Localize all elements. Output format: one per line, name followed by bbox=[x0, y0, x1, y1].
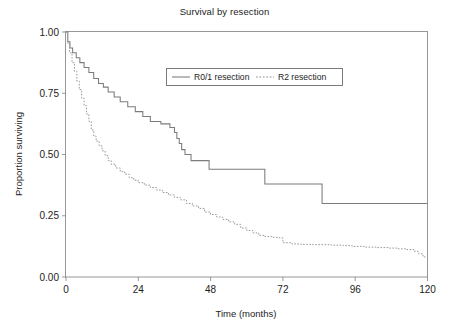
y-tick-label: 1.00 bbox=[40, 27, 60, 38]
legend-label-r2-resection: R2 resection bbox=[278, 72, 326, 82]
x-axis-title: Time (months) bbox=[216, 308, 277, 319]
y-tick-label: 0.00 bbox=[40, 272, 60, 283]
legend-label-r01-resection: R0/1 resection bbox=[194, 72, 250, 82]
y-tick-label: 0.50 bbox=[40, 149, 60, 160]
y-axis-tick-labels: 0.000.250.500.751.00 bbox=[40, 27, 60, 283]
x-tick-label: 24 bbox=[133, 284, 145, 295]
x-tick-label: 0 bbox=[63, 284, 69, 295]
y-tick-label: 0.75 bbox=[40, 88, 60, 99]
x-axis-ticks bbox=[66, 277, 428, 281]
x-tick-label: 96 bbox=[350, 284, 362, 295]
survival-chart-figure: Survival by resection 0.000.250.500.751.… bbox=[0, 0, 449, 325]
series-line-r01-resection bbox=[66, 32, 428, 204]
y-axis-title: Proportion surviving bbox=[13, 112, 24, 196]
x-tick-label: 120 bbox=[419, 284, 436, 295]
survival-plot: 0.000.250.500.751.00 024487296120 Time (… bbox=[0, 0, 449, 325]
series-line-r2-resection bbox=[66, 32, 428, 260]
x-axis-tick-labels: 024487296120 bbox=[63, 284, 436, 295]
chart-legend: R0/1 resection R2 resection bbox=[167, 69, 343, 86]
x-tick-label: 48 bbox=[205, 284, 217, 295]
x-tick-label: 72 bbox=[277, 284, 289, 295]
y-tick-label: 0.25 bbox=[40, 210, 60, 221]
